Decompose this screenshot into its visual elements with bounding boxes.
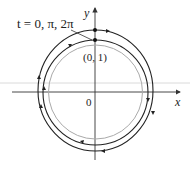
arrow-icon	[37, 75, 41, 79]
arrow-icon	[42, 86, 46, 90]
point-outer-start	[93, 28, 97, 32]
arrow-icon	[151, 111, 155, 115]
point-unit	[93, 38, 97, 42]
outer-curve	[38, 30, 153, 151]
label-x-axis: x	[175, 96, 180, 108]
arrow-icon	[106, 29, 110, 33]
arrow-icon	[101, 149, 105, 153]
label-point: (0, 1)	[83, 52, 107, 63]
label-origin: 0	[86, 97, 92, 108]
label-y-axis: y	[84, 7, 89, 19]
arrow-icon	[146, 98, 150, 102]
label-t-values: t = 0, π, 2π	[17, 17, 74, 30]
